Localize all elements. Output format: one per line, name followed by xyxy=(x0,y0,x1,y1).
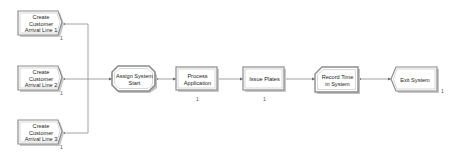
create-block-1[interactable]: Create Customer Arrival Line 1 xyxy=(18,11,64,37)
block-label: Process Application xyxy=(176,73,219,86)
block-label: Create Customer Arrival Line 1 xyxy=(18,14,64,33)
issue-plates-block[interactable]: Issue Plates xyxy=(243,67,286,92)
block-label: Record Time in System xyxy=(315,74,360,87)
block-label: Issue Plates xyxy=(245,76,283,82)
block-counter: 1 xyxy=(263,96,266,102)
block-label: Exit System xyxy=(396,77,434,83)
create-block-2[interactable]: Create Customer Arrival Line 2 xyxy=(18,66,64,92)
flowchart-canvas: Create Customer Arrival Line 1 1 Create … xyxy=(0,0,460,157)
exit-system-block[interactable]: Exit System xyxy=(391,67,439,93)
block-label: Create Customer Arrival Line 3 xyxy=(18,123,64,142)
create-block-3[interactable]: Create Customer Arrival Line 3 xyxy=(18,120,64,146)
block-label: Create Customer Arrival Line 2 xyxy=(18,69,64,88)
process-application-block[interactable]: Process Application xyxy=(176,67,219,92)
block-counter: 1 xyxy=(196,96,199,102)
assign-block[interactable]: Assign System Start xyxy=(112,66,157,93)
block-counter: 1 xyxy=(441,88,444,94)
block-label: Assign System Start xyxy=(112,73,157,86)
record-block[interactable]: Record Time in System xyxy=(315,67,360,94)
